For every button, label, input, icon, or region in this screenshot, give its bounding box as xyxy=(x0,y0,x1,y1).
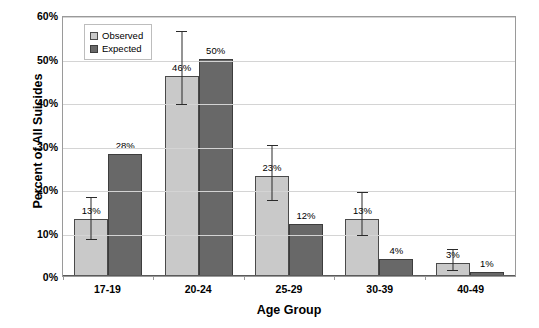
bar-group: 3%1% xyxy=(425,17,515,276)
bar-expected[interactable]: 50% xyxy=(199,59,233,277)
legend-label-expected: Expected xyxy=(102,43,142,54)
x-axis-tick-label: 25-29 xyxy=(244,283,335,295)
bar-pair: 23%12% xyxy=(244,17,334,276)
legend-item-expected: Expected xyxy=(90,42,143,55)
error-bar-cap-bottom xyxy=(357,235,368,236)
error-bar xyxy=(91,197,92,241)
gridline xyxy=(63,17,515,18)
error-bar xyxy=(272,145,273,202)
bar-chart: Percent of All Suicides 0%10%20%30%40%50… xyxy=(0,0,539,328)
bar-value-label: 4% xyxy=(390,245,404,256)
error-bar-cap-bottom xyxy=(176,104,187,105)
gridline xyxy=(63,191,515,192)
error-bar-cap-top xyxy=(86,197,97,198)
bar-value-label: 50% xyxy=(206,45,225,56)
y-axis-tick-labels: 0%10%20%30%40%50%60% xyxy=(14,16,58,277)
legend-swatch-observed-icon xyxy=(90,32,98,40)
error-bar xyxy=(362,192,363,236)
bar-value-label: 12% xyxy=(297,210,316,221)
error-bar-cap-bottom xyxy=(447,270,458,271)
y-axis-tick-label: 60% xyxy=(14,10,58,22)
x-axis-tick-label: 20-24 xyxy=(153,283,244,295)
x-axis-tick xyxy=(63,276,64,280)
y-axis-tick-label: 50% xyxy=(14,54,58,66)
legend-label-observed: Observed xyxy=(102,30,143,41)
bar-group: 13%4% xyxy=(334,17,424,276)
x-axis-tick-label: 40-49 xyxy=(425,283,516,295)
bar-expected[interactable]: 28% xyxy=(108,154,142,276)
x-axis-tick-labels: 17-1920-2425-2930-3940-49 xyxy=(62,283,516,295)
bar-observed[interactable]: 13% xyxy=(74,219,108,276)
bar-expected[interactable]: 12% xyxy=(289,224,323,276)
x-axis-line xyxy=(63,275,515,276)
error-bar-cap-top xyxy=(176,31,187,32)
y-axis-tick-label: 40% xyxy=(14,97,58,109)
gridline xyxy=(63,61,515,62)
y-axis-tick-label: 30% xyxy=(14,141,58,153)
y-axis-tick-label: 20% xyxy=(14,184,58,196)
error-bar-cap-top xyxy=(267,145,278,146)
error-bar-cap-bottom xyxy=(267,200,278,201)
bar-pair: 46%50% xyxy=(153,17,243,276)
legend-item-observed: Observed xyxy=(90,29,143,42)
chart-legend: Observed Expected xyxy=(84,24,152,60)
error-bar-cap-top xyxy=(447,249,458,250)
x-axis-tick xyxy=(153,276,154,280)
gridline xyxy=(63,235,515,236)
bar-value-label: 1% xyxy=(480,258,494,269)
bar-pair: 3%1% xyxy=(425,17,515,276)
x-axis-tick-label: 17-19 xyxy=(62,283,153,295)
gridline xyxy=(63,148,515,149)
error-bar xyxy=(181,31,182,105)
x-axis-title: Age Group xyxy=(62,303,516,317)
error-bar-cap-bottom xyxy=(86,239,97,240)
legend-swatch-expected-icon xyxy=(90,45,98,53)
x-axis-tick xyxy=(244,276,245,280)
error-bar xyxy=(452,249,453,271)
bar-value-label: 28% xyxy=(116,140,135,151)
bar-pair: 13%4% xyxy=(334,17,424,276)
x-axis-tick-label: 30-39 xyxy=(334,283,425,295)
bar-group: 23%12% xyxy=(244,17,334,276)
error-bar-cap-top xyxy=(357,192,368,193)
y-axis-tick-label: 0% xyxy=(14,271,58,283)
bar-observed[interactable]: 46% xyxy=(165,76,199,276)
gridline xyxy=(63,104,515,105)
x-axis-tick xyxy=(425,276,426,280)
x-axis-tick xyxy=(334,276,335,280)
bar-observed[interactable]: 13% xyxy=(345,219,379,276)
y-axis-tick-label: 10% xyxy=(14,228,58,240)
bar-group: 46%50% xyxy=(153,17,243,276)
bar-expected[interactable]: 4% xyxy=(379,259,413,276)
